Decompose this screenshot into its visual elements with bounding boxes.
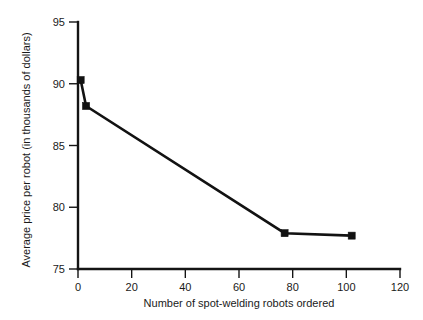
- y-tick-label-80: 80: [53, 201, 65, 213]
- chart-container: Average price per robot (in thousands of…: [0, 0, 423, 320]
- x-tick-label-0: 0: [75, 281, 81, 293]
- x-tick-label-40: 40: [179, 281, 191, 293]
- line-chart: Average price per robot (in thousands of…: [0, 0, 423, 320]
- x-tick-label-100: 100: [337, 281, 355, 293]
- y-tick-label-85: 85: [53, 140, 65, 152]
- x-axis-title: Number of spot-welding robots ordered: [144, 297, 335, 309]
- y-tick-label-90: 90: [53, 78, 65, 90]
- data-point-marker: [83, 102, 90, 109]
- y-axis-ticks: 95 90 85 80 75: [53, 16, 78, 275]
- series-markers: [77, 77, 355, 240]
- series-line: [81, 80, 352, 236]
- x-tick-label-20: 20: [126, 281, 138, 293]
- x-axis-ticks: 0 20 40 60 80 100 120: [75, 269, 409, 293]
- y-tick-label-95: 95: [53, 16, 65, 28]
- y-axis-title: Average price per robot (in thousands of…: [20, 32, 32, 267]
- data-point-marker: [348, 232, 355, 239]
- x-tick-label-60: 60: [233, 281, 245, 293]
- x-tick-label-120: 120: [391, 281, 409, 293]
- data-point-marker: [281, 230, 288, 237]
- x-tick-label-80: 80: [287, 281, 299, 293]
- y-tick-label-75: 75: [53, 263, 65, 275]
- data-point-marker: [77, 77, 84, 84]
